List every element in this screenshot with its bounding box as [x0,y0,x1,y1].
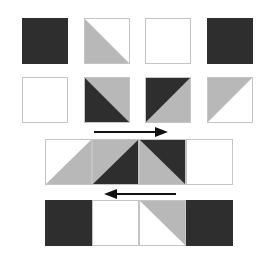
unit-r2-c3-hst [145,77,191,123]
unit-r2-c4-hst [207,77,253,123]
row3-c3-hst [139,139,186,185]
unit-r1-c2-hst [84,18,130,64]
row4-c1-dark-square [45,200,92,246]
unit-r2-c1-white-square [22,77,68,123]
unit-r2-c2-hst [84,77,130,123]
row4-c3-hst [139,200,186,246]
unit-r1-c4-dark-square [207,18,253,64]
arrow-right-icon [93,126,169,138]
unit-r1-c3-white-square [145,18,191,64]
arrow-left-icon [103,188,177,200]
row4-c4-dark-square [186,200,233,246]
row4-c2-white-square [92,200,139,246]
row3-c1-hst [45,139,92,185]
row3-c2-hst [92,139,139,185]
unit-r1-c1-dark-square [22,18,68,64]
row3-c4-white-square [186,139,233,185]
